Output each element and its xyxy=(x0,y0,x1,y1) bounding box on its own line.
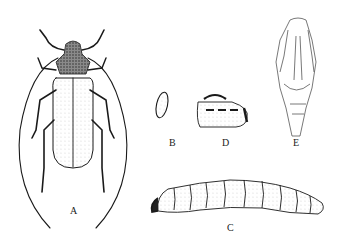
pupa-drawing xyxy=(276,18,316,136)
egg-drawing xyxy=(154,91,170,119)
panel-label-e: E xyxy=(293,137,299,148)
panel-label-c: C xyxy=(227,222,234,233)
panel-label-b: B xyxy=(169,137,176,148)
larva-drawing xyxy=(152,180,324,214)
panel-label-a: A xyxy=(70,205,77,216)
figure-drawing xyxy=(0,0,341,245)
adult-beetle-drawing xyxy=(19,30,127,228)
oviposition-scar-drawing xyxy=(197,95,247,127)
panel-label-d: D xyxy=(222,137,229,148)
life-cycle-figure: A B C D E xyxy=(0,0,341,245)
